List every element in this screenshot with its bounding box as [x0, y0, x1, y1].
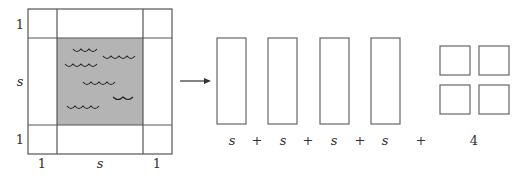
rectangle-4 [371, 38, 400, 124]
pool-border-diagram: 1 s 1 1 s 1 s + s + s + s + 4 [0, 0, 522, 176]
corner-squares [440, 46, 509, 114]
bottom-label-middle: s [97, 156, 104, 171]
bottom-label-right: 1 [153, 156, 161, 171]
rectangle-2 [268, 38, 297, 124]
term-s-2: s [280, 133, 287, 148]
unit-square-2 [479, 46, 509, 75]
unit-square-1 [440, 46, 470, 75]
term-4: 4 [470, 133, 478, 148]
term-s-1: s [229, 133, 236, 148]
plus-4: + [416, 133, 427, 148]
main-square [28, 9, 172, 154]
term-s-4: s [382, 133, 389, 148]
plus-1: + [252, 133, 263, 148]
pool-region [57, 38, 143, 125]
plus-3: + [355, 133, 366, 148]
left-label-bottom: 1 [16, 132, 24, 147]
border-rectangles [217, 38, 400, 124]
left-label-top: 1 [16, 17, 24, 32]
plus-2: + [303, 133, 314, 148]
right-arrow-icon [180, 78, 211, 84]
rectangle-1 [217, 38, 246, 124]
term-s-3: s [331, 133, 338, 148]
rectangle-3 [320, 38, 349, 124]
unit-square-4 [479, 85, 509, 114]
bottom-label-left: 1 [38, 156, 46, 171]
unit-square-3 [440, 85, 470, 114]
left-label-middle: s [17, 74, 24, 89]
